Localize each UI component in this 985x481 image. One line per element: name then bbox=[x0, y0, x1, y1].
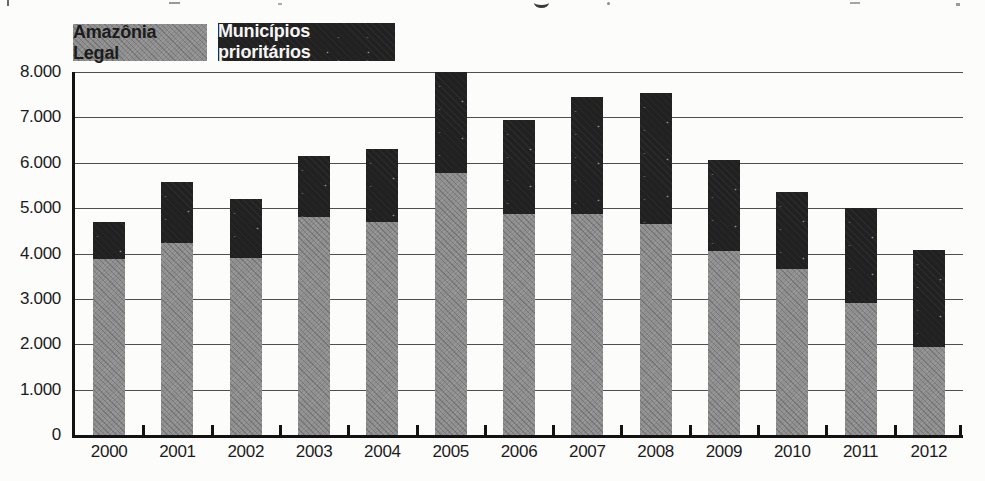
bar-segment-amazonia-legal-2012 bbox=[913, 347, 945, 435]
bar-2000 bbox=[93, 222, 125, 435]
bar-2009 bbox=[708, 160, 740, 435]
y-tick-label-8.000: 8.000 bbox=[20, 62, 61, 82]
bar-segment-municipios-prioritarios-2002 bbox=[230, 199, 262, 258]
bar-segment-municipios-prioritarios-2012 bbox=[913, 250, 945, 347]
y-tick-label-3.000: 3.000 bbox=[20, 289, 61, 309]
bar-segment-amazonia-legal-2007 bbox=[571, 214, 603, 435]
bar-segment-amazonia-legal-2000 bbox=[93, 259, 125, 435]
bar-segment-municipios-prioritarios-2011 bbox=[845, 208, 877, 303]
x-tick-label-2011: 2011 bbox=[826, 441, 894, 463]
x-tick-label-2003: 2003 bbox=[280, 441, 348, 463]
legend-item-amazonia-legal: Amazônia Legal bbox=[73, 24, 207, 61]
bar-segment-municipios-prioritarios-2001 bbox=[161, 182, 193, 243]
bar-segment-amazonia-legal-2005 bbox=[435, 173, 467, 435]
x-tick-label-2004: 2004 bbox=[348, 441, 416, 463]
x-tick-label-2000: 2000 bbox=[75, 441, 143, 463]
bar-segment-amazonia-legal-2004 bbox=[366, 222, 398, 435]
x-axis-tick-10 bbox=[757, 425, 760, 435]
x-axis-tick-11 bbox=[825, 425, 828, 435]
bar-segment-municipios-prioritarios-2000 bbox=[93, 222, 125, 260]
bar-segment-amazonia-legal-2008 bbox=[640, 224, 672, 435]
bar-segment-municipios-prioritarios-2006 bbox=[503, 120, 535, 214]
scan-artifact bbox=[850, 2, 860, 4]
x-tick-label-2009: 2009 bbox=[690, 441, 758, 463]
bar-segment-municipios-prioritarios-2010 bbox=[776, 192, 808, 269]
bar-segment-amazonia-legal-2001 bbox=[161, 243, 193, 435]
bar-2003 bbox=[298, 156, 330, 435]
scan-artifact bbox=[278, 3, 282, 5]
bar-2012 bbox=[913, 250, 945, 435]
bar-2011 bbox=[845, 208, 877, 435]
x-axis-tick-3 bbox=[279, 425, 282, 435]
bar-2008 bbox=[640, 93, 672, 435]
bar-segment-amazonia-legal-2009 bbox=[708, 251, 740, 435]
gridline-7.000 bbox=[75, 117, 963, 118]
x-axis-tick-7 bbox=[552, 425, 555, 435]
bar-2001 bbox=[161, 182, 193, 435]
y-tick-label-4.000: 4.000 bbox=[20, 244, 61, 264]
y-tick-label-7.000: 7.000 bbox=[20, 107, 61, 127]
x-tick-label-2002: 2002 bbox=[212, 441, 280, 463]
x-axis-tick-12 bbox=[894, 425, 897, 435]
scan-artifact bbox=[956, 3, 960, 6]
y-tick-label-6.000: 6.000 bbox=[20, 153, 61, 173]
scan-artifact bbox=[7, 0, 9, 6]
x-axis-tick-6 bbox=[484, 425, 487, 435]
x-axis-tick-13 bbox=[959, 425, 962, 435]
x-axis-tick-4 bbox=[347, 425, 350, 435]
y-tick-label-2.000: 2.000 bbox=[20, 334, 61, 354]
bar-2005 bbox=[435, 72, 467, 435]
bar-segment-municipios-prioritarios-2004 bbox=[366, 149, 398, 222]
x-axis-tick-2 bbox=[211, 425, 214, 435]
bar-segment-amazonia-legal-2006 bbox=[503, 214, 535, 435]
bar-2006 bbox=[503, 120, 535, 435]
y-axis-line bbox=[72, 72, 75, 438]
bar-segment-amazonia-legal-2002 bbox=[230, 258, 262, 435]
y-axis-labels: 8.0007.0006.0005.0004.0003.0002.0001.000… bbox=[0, 72, 66, 435]
x-tick-label-2010: 2010 bbox=[758, 441, 826, 463]
y-tick-label-0: 0 bbox=[52, 425, 61, 445]
bar-segment-municipios-prioritarios-2008 bbox=[640, 93, 672, 224]
x-axis-tick-5 bbox=[416, 425, 419, 435]
bar-segment-municipios-prioritarios-2005 bbox=[435, 72, 467, 173]
y-tick-label-5.000: 5.000 bbox=[20, 198, 61, 218]
bar-2010 bbox=[776, 192, 808, 435]
scan-artifact bbox=[607, 2, 610, 5]
x-tick-label-2007: 2007 bbox=[553, 441, 621, 463]
x-axis-tick-9 bbox=[689, 425, 692, 435]
x-tick-label-2006: 2006 bbox=[485, 441, 553, 463]
x-tick-label-2008: 2008 bbox=[622, 441, 690, 463]
bar-2002 bbox=[230, 199, 262, 435]
scan-artifact bbox=[169, 2, 180, 4]
plot-area bbox=[75, 72, 963, 435]
bar-segment-municipios-prioritarios-2007 bbox=[571, 97, 603, 214]
bar-segment-amazonia-legal-2010 bbox=[776, 269, 808, 435]
x-tick-label-2001: 2001 bbox=[143, 441, 211, 463]
legend-label-amazonia-legal: Amazônia Legal bbox=[73, 22, 207, 64]
legend-item-municipios-prioritarios: Municípios prioritários bbox=[218, 23, 395, 61]
legend-label-municipios-prioritarios: Municípios prioritários bbox=[218, 21, 395, 63]
x-axis-labels: 2000200120022003200420052006200720082009… bbox=[75, 441, 963, 463]
x-axis-line bbox=[72, 435, 963, 438]
scan-artifact bbox=[534, 0, 549, 8]
chart-canvas: Amazônia Legal Municípios prioritários 8… bbox=[0, 0, 985, 481]
bar-segment-municipios-prioritarios-2009 bbox=[708, 160, 740, 251]
x-axis-tick-1 bbox=[142, 425, 145, 435]
y-tick-label-1.000: 1.000 bbox=[20, 380, 61, 400]
bar-2007 bbox=[571, 97, 603, 435]
bar-segment-municipios-prioritarios-2003 bbox=[298, 156, 330, 217]
bar-segment-amazonia-legal-2011 bbox=[845, 303, 877, 435]
gridline-8.000 bbox=[75, 72, 963, 73]
bar-segment-amazonia-legal-2003 bbox=[298, 217, 330, 435]
bar-2004 bbox=[366, 149, 398, 435]
x-tick-label-2012: 2012 bbox=[895, 441, 963, 463]
x-axis-tick-8 bbox=[620, 425, 623, 435]
x-tick-label-2005: 2005 bbox=[417, 441, 485, 463]
